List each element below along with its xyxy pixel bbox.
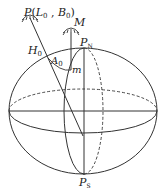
equator-back	[9, 89, 157, 111]
label-P-coords: P(L0 , B0)	[23, 6, 75, 20]
label-PN: PN	[79, 36, 93, 49]
label-H0: H0	[27, 44, 42, 58]
ellipsoid-diagram: P(L0 , B0) M H0 A0 m PN PS	[0, 0, 165, 192]
label-m: m	[72, 64, 81, 75]
line-P-to-center	[30, 18, 83, 136]
label-M: M	[73, 16, 86, 29]
label-PS: PS	[78, 176, 91, 189]
equator-front	[9, 111, 157, 133]
